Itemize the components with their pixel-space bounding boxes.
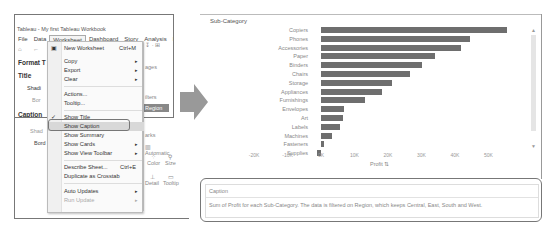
caption-frame: Caption Sum of Profit for each Sub-Categ… (205, 184, 539, 218)
menu-item-run-update: Run Update ▸ (48, 196, 144, 205)
transition-arrow-icon (180, 84, 208, 120)
title-section-label: Title (18, 72, 31, 79)
bar[interactable] (321, 27, 507, 33)
x-axis-title: Profit ⇅ (370, 161, 389, 167)
x-tick-label: 30K (417, 152, 426, 158)
menu-item-auto-updates[interactable]: Auto Updates ▸ (48, 187, 144, 196)
left-window-border (14, 14, 15, 218)
menu-item-copy[interactable]: Copy ▸ (48, 57, 144, 66)
size-button[interactable]: ⚲ Size (165, 154, 176, 166)
menu-separator (64, 183, 142, 184)
menu-item-describe-sheet[interactable]: Describe Sheet... Ctrl+E (48, 163, 144, 172)
back-icon[interactable]: ← (33, 46, 39, 52)
caption-title: Caption (209, 188, 228, 194)
window-title: Tableau - My first Tableau Workbook (15, 26, 174, 34)
x-tick-label: -20K (249, 152, 260, 158)
detail-button[interactable]: ⊥ Detail (145, 174, 159, 186)
scrollbar-thumb[interactable] (531, 35, 536, 131)
category-label: Binders (218, 61, 308, 69)
pages-label: ages (145, 64, 157, 70)
title-shading-label: Shadi (27, 85, 41, 91)
menu-item-show-view-toolbar[interactable]: Show View Toolbar ▸ (48, 149, 144, 158)
show-caption-highlight-ring (48, 119, 130, 131)
scroll-up-icon[interactable]: ▲ (531, 27, 536, 33)
category-label: Paper (218, 52, 308, 60)
format-pane-header: Format T (18, 59, 46, 66)
bar[interactable] (321, 53, 435, 59)
menu-separator (64, 110, 142, 111)
menu-separator (64, 160, 142, 161)
x-tick-label: 0K (318, 152, 324, 158)
bar[interactable] (321, 62, 422, 68)
bar[interactable] (321, 45, 461, 51)
submenu-arrow-icon: ▸ (135, 187, 138, 196)
toolbar-sort-icon[interactable]: ↧ · ⊞ (145, 41, 160, 48)
menu-item-show-summary[interactable]: Show Summary (48, 131, 144, 140)
new-sheet-icon: ▣ (51, 44, 57, 53)
menu-item-export[interactable]: Export ▸ (48, 66, 144, 75)
category-label: Fasteners (218, 140, 308, 148)
bar[interactable] (321, 97, 365, 103)
bar[interactable] (321, 36, 470, 42)
menu-item-show-cards[interactable]: Show Cards ▸ (48, 140, 144, 149)
sort-icon[interactable]: ⇅ (384, 161, 389, 167)
category-label: Storage (218, 79, 308, 87)
submenu-arrow-icon: ▸ (135, 149, 138, 158)
x-tick-label: 40K (451, 152, 460, 158)
category-label: Art (218, 114, 308, 122)
bar[interactable] (321, 89, 382, 95)
menu-file[interactable]: File (15, 35, 31, 44)
menu-item-new-worksheet[interactable]: ▣ New Worksheet Ctrl+M (48, 44, 144, 53)
category-label: Phones (218, 35, 308, 43)
color-button[interactable]: ⁘ Color (147, 154, 160, 166)
bar[interactable] (321, 115, 343, 121)
category-label: Machines (218, 132, 308, 140)
x-tick-label: 10K (350, 152, 359, 158)
caption-border-label: Bord (34, 140, 46, 146)
category-label: Accessories (218, 44, 308, 52)
menu-item-actions[interactable]: Actions... (48, 90, 144, 99)
caption-divider (206, 197, 538, 198)
tooltip-button[interactable]: ▭ Tooltip (163, 174, 179, 186)
caption-section-label: Caption (18, 111, 42, 118)
chart-right-border (541, 14, 542, 179)
x-tick-label: -10K (282, 152, 293, 158)
caption-shading-label: Shad (30, 128, 43, 134)
caption-panel: Caption Sum of Profit for each Sub-Categ… (200, 178, 542, 222)
chart-top-border (200, 14, 542, 15)
category-label: Appliances (218, 88, 308, 96)
category-label: Labels (218, 123, 308, 131)
category-label: Copiers (218, 26, 308, 34)
side-panel-sliver: ↧ · ⊞ ages ilters Region arks ▥ Automati… (143, 41, 174, 211)
menu-item-clear[interactable]: Clear ▸ (48, 75, 144, 84)
x-tick-label: 50K (484, 152, 493, 158)
category-label: Furnishings (218, 96, 308, 104)
category-label: Supplies (218, 149, 308, 157)
bar[interactable] (321, 124, 340, 130)
submenu-arrow-icon: ▸ (135, 66, 138, 75)
bar[interactable] (321, 141, 324, 147)
left-window-border-bottom (14, 218, 189, 219)
filter-pill-region[interactable]: Region (143, 104, 169, 112)
bar[interactable] (321, 106, 344, 112)
submenu-arrow-icon: ▸ (135, 140, 138, 149)
title-border-label: Bor (32, 97, 41, 103)
bar[interactable] (321, 71, 410, 77)
sub-category-header: Sub-Category (210, 18, 247, 24)
filters-label: ilters (145, 94, 157, 100)
marks-label: arks (145, 132, 155, 138)
menu-item-duplicate-as-crosstab[interactable]: Duplicate as Crosstab (48, 172, 144, 181)
category-label: Envelopes (218, 105, 308, 113)
vertical-scrollbar[interactable]: ▲ ▼ (531, 27, 536, 147)
scroll-down-icon[interactable]: ▼ (531, 143, 536, 149)
menu-separator (64, 86, 142, 87)
category-label: Chairs (218, 70, 308, 78)
menu-item-tooltip[interactable]: Tooltip... (48, 99, 144, 108)
caption-text[interactable]: Sum of Profit for each Sub-Category. The… (209, 202, 482, 208)
bar[interactable] (321, 133, 332, 139)
bar[interactable] (321, 80, 392, 86)
submenu-arrow-icon: ▸ (135, 57, 138, 66)
x-tick-label: 20K (384, 152, 393, 158)
home-icon[interactable]: ⌂ (18, 46, 22, 52)
submenu-arrow-icon: ▸ (135, 75, 138, 84)
